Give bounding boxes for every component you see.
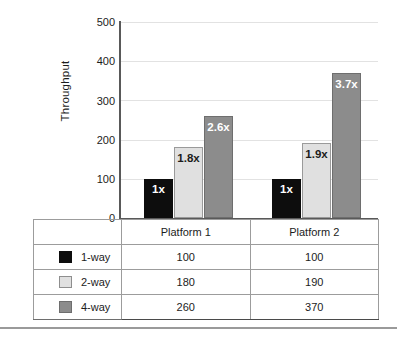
bar-label-p1-4way: 2.6x — [205, 121, 232, 133]
table-header-blank — [34, 220, 122, 245]
bar-label-p2-2way: 1.9x — [303, 148, 330, 160]
y-tick-500: 500 — [75, 17, 115, 28]
table-header-platform-2: Platform 2 — [250, 220, 379, 245]
gridline-400 — [121, 61, 378, 62]
cell-2way-platform-2: 190 — [250, 270, 379, 295]
table-row: 4-way 260 370 — [34, 295, 379, 320]
legend-cell-1way: 1-way — [34, 245, 122, 270]
table-header-platform-1: Platform 1 — [122, 220, 251, 245]
legend-cell-2way: 2-way — [34, 270, 122, 295]
y-tick-100: 100 — [75, 174, 115, 185]
bar-p2-1way: 1x — [272, 179, 301, 218]
bar-p1-2way: 1.8x — [174, 147, 203, 218]
y-tick-300: 300 — [75, 96, 115, 107]
table-row: 2-way 180 190 — [34, 270, 379, 295]
table-row: 1-way 100 100 — [34, 245, 379, 270]
legend-label-2way: 2-way — [81, 276, 110, 288]
y-tick-200: 200 — [75, 135, 115, 146]
y-axis-line — [119, 21, 121, 219]
bar-label-p2-4way: 3.7x — [333, 78, 360, 90]
light-gray-swatch-icon — [59, 276, 72, 288]
bar-label-p1-1way: 1x — [144, 183, 173, 195]
bar-label-p2-1way: 1x — [272, 183, 301, 195]
black-swatch-icon — [59, 251, 72, 263]
bottom-divider — [0, 327, 397, 329]
y-tick-400: 400 — [75, 56, 115, 67]
bar-p2-2way: 1.9x — [302, 143, 331, 218]
chart-page: 1x 1.8x 2.6x 1x 1.9x 3.7x 500 400 300 20… — [0, 0, 397, 337]
bar-p1-4way: 2.6x — [204, 116, 233, 218]
bar-label-p1-2way: 1.8x — [175, 152, 202, 164]
table-header-row: Platform 1 Platform 2 — [34, 220, 379, 245]
cell-1way-platform-1: 100 — [122, 245, 251, 270]
gray-swatch-icon — [59, 301, 72, 313]
legend-label-1way: 1-way — [81, 251, 110, 263]
cell-1way-platform-2: 100 — [250, 245, 379, 270]
plot-area: 1x 1.8x 2.6x 1x 1.9x 3.7x — [121, 22, 378, 218]
y-axis-title: Throughput — [59, 21, 71, 161]
gridline-500 — [121, 22, 378, 23]
cell-4way-platform-1: 260 — [122, 295, 251, 320]
cell-4way-platform-2: 370 — [250, 295, 379, 320]
bar-p2-4way: 3.7x — [332, 73, 361, 218]
data-table: Platform 1 Platform 2 1-way 100 100 2- — [33, 219, 379, 318]
bar-p1-1way: 1x — [144, 179, 173, 218]
cell-2way-platform-1: 180 — [122, 270, 251, 295]
legend-cell-4way: 4-way — [34, 295, 122, 320]
legend-label-4way: 4-way — [81, 301, 110, 313]
